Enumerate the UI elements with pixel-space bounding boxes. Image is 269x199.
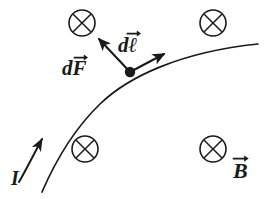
B-field-label: B [233, 160, 248, 182]
field-symbol-top-left [69, 10, 95, 36]
field-symbol-top-right [200, 10, 226, 36]
dF-label: dF [62, 58, 87, 79]
current-arrow [19, 139, 42, 182]
element-point-marker [125, 67, 135, 77]
current-label: I [11, 168, 19, 188]
dl-label: dℓ [118, 35, 137, 56]
B-label-symbol-wrap: B [233, 160, 248, 182]
vector-arrow-accent-icon [232, 154, 250, 162]
field-symbol-bottom-left [72, 136, 98, 162]
dF-label-base: d [62, 56, 73, 80]
dF-label-symbol-wrap: F [73, 58, 87, 79]
dl-label-symbol-wrap: ℓ [129, 35, 138, 56]
vector-arrow-accent-icon [126, 29, 142, 37]
field-symbol-bottom-right [200, 136, 226, 162]
magnetic-force-diagram: dF dℓ B I [0, 0, 269, 199]
vector-arrow-accent-icon [72, 53, 88, 61]
